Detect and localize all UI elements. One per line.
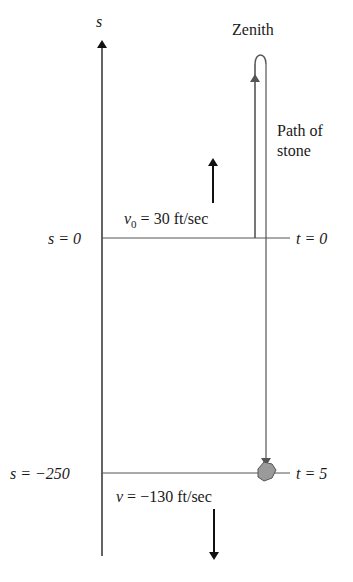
path-label-line2: stone	[277, 143, 311, 159]
stone-icon	[258, 462, 276, 481]
zenith-loop	[255, 55, 266, 64]
s-axis-label: s	[96, 14, 102, 30]
velocity-value: = 30 ft/sec	[137, 210, 209, 227]
final-velocity-label: v = −130 ft/sec	[116, 489, 212, 505]
zenith-label: Zenith	[232, 22, 274, 38]
s0-label: s = 0	[48, 231, 81, 247]
path-label-line1: Path of	[277, 123, 323, 139]
initial-velocity-label: v0 = 30 ft/sec	[124, 211, 208, 230]
s-250-label: s = −250	[10, 466, 70, 482]
t5-label: t = 5	[296, 466, 327, 482]
velocity-value: = −130 ft/sec	[123, 488, 212, 505]
t0-label: t = 0	[296, 231, 327, 247]
